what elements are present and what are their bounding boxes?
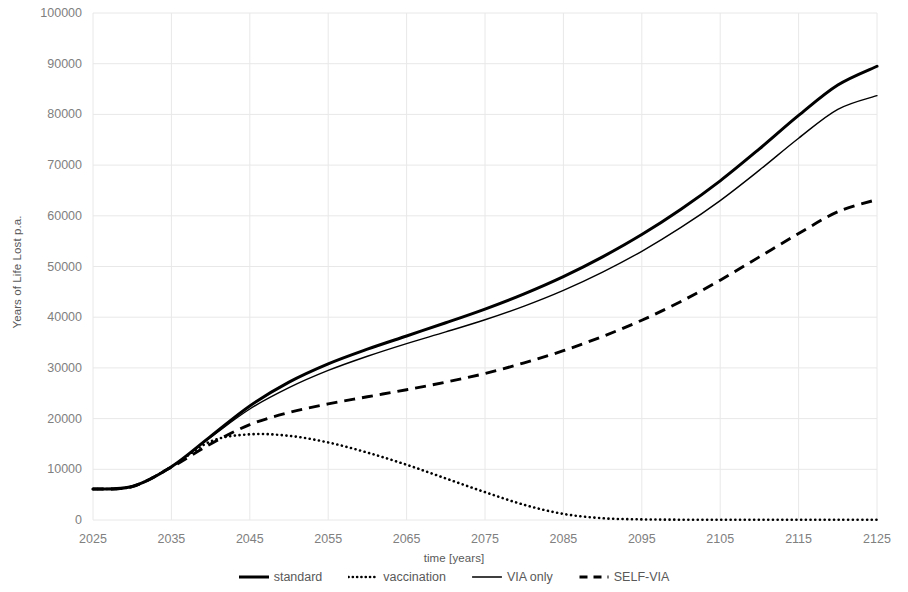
legend-item-via-only[interactable]: VIA only (472, 570, 553, 584)
x-axis-tick-label: 2075 (471, 532, 499, 546)
legend-swatch-solid-thin (472, 571, 502, 583)
legend-item-vaccination[interactable]: vaccination (348, 570, 446, 584)
x-axis-tick-label: 2085 (549, 532, 577, 546)
legend-swatch-dashed (579, 571, 609, 583)
legend-item-self-via[interactable]: SELF-VIA (579, 570, 670, 584)
legend-label: SELF-VIA (614, 570, 670, 584)
x-axis-title: time [years] (0, 552, 908, 564)
legend-swatch-solid-thick (239, 571, 269, 583)
legend-label: VIA only (507, 570, 553, 584)
chart-container: Years of Life Lost p.a. 0100002000030000… (0, 0, 908, 592)
legend-swatch-dotted (348, 571, 378, 583)
x-axis-tick-label: 2025 (79, 532, 107, 546)
legend-label: standard (274, 570, 323, 584)
x-axis-tick-label: 2115 (785, 532, 812, 546)
legend-item-standard[interactable]: standard (239, 570, 323, 584)
x-axis-tick-label: 2065 (393, 532, 421, 546)
legend-label: vaccination (383, 570, 446, 584)
x-axis-tick-label: 2125 (863, 532, 891, 546)
x-axis-tick-label: 2055 (314, 532, 342, 546)
plot-area (0, 0, 908, 592)
x-axis-tick-label: 2045 (236, 532, 264, 546)
x-axis-tick-label: 2105 (706, 532, 734, 546)
x-axis-tick-label: 2095 (628, 532, 656, 546)
x-axis-tick-label: 2035 (157, 532, 185, 546)
chart-legend: standardvaccinationVIA onlySELF-VIA (0, 570, 908, 584)
